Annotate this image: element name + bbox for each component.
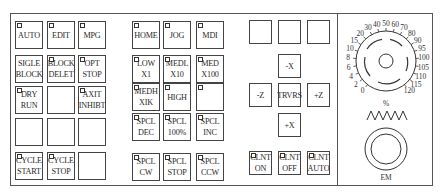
indicator-led-icon bbox=[49, 23, 54, 28]
dial-scale-label: 2 bbox=[354, 80, 358, 89]
key-label: EDIT bbox=[52, 30, 70, 41]
blank-9-button[interactable] bbox=[307, 20, 330, 44]
dial-scale-label: 100 bbox=[418, 53, 430, 62]
axis-inhibit-button[interactable]: AXITINHIBT bbox=[78, 86, 106, 114]
key-label: SPCL bbox=[201, 116, 220, 127]
key-label: DRY bbox=[21, 89, 37, 100]
key-label: +X bbox=[284, 120, 294, 131]
feed-override-dial[interactable]: 0246810152030405060708090951001051101151… bbox=[338, 13, 434, 186]
emergency-stop-button[interactable] bbox=[365, 128, 407, 170]
indicator-led-icon bbox=[251, 153, 256, 158]
spindle-ccw-button[interactable]: SPCLCCW bbox=[196, 153, 224, 181]
cycle-stop-button[interactable]: CYCLESTOP bbox=[47, 152, 75, 180]
medl-x10-button[interactable]: MEDLX10 bbox=[163, 55, 191, 83]
key-label: 100% bbox=[168, 127, 186, 138]
indicator-led-icon bbox=[134, 155, 139, 160]
indicator-led-icon bbox=[198, 85, 203, 90]
indicator-led-icon bbox=[165, 57, 170, 62]
key-label: CW bbox=[140, 167, 153, 178]
zigzag-resistor-icon bbox=[367, 111, 407, 120]
key-label: ON bbox=[255, 163, 266, 174]
dial-scale-label: 4 bbox=[349, 72, 353, 81]
dial-scale-label: 30 bbox=[364, 23, 372, 32]
key-label: INHIBT bbox=[79, 100, 106, 111]
dial-scale-label: 40 bbox=[373, 20, 381, 29]
medh-x1k-button[interactable]: MEDHXIK bbox=[132, 83, 160, 111]
indicator-led-icon bbox=[198, 23, 203, 28]
jog-plus-z-button[interactable]: +Z bbox=[307, 83, 330, 107]
jog-minus-z-button[interactable]: -Z bbox=[249, 83, 272, 107]
mpg-button[interactable]: MPG bbox=[78, 21, 106, 49]
coolant-auto-button[interactable]: CLNTAUTO bbox=[307, 151, 330, 175]
key-label: -Z bbox=[257, 90, 264, 101]
key-label: HIGH bbox=[167, 92, 187, 103]
key-label: SIGLE bbox=[18, 58, 40, 69]
block-delete-button[interactable]: BLOCKDELET bbox=[47, 55, 75, 83]
jog-minus-x-button[interactable]: -X bbox=[278, 54, 301, 78]
key-label: RUN bbox=[21, 100, 38, 111]
key-label: X100 bbox=[201, 69, 218, 80]
dial-unit: % bbox=[383, 99, 389, 108]
key-label: AUTO bbox=[18, 30, 40, 41]
indicator-led-icon bbox=[80, 23, 85, 28]
auto-button[interactable]: AUTO bbox=[15, 21, 43, 49]
indicator-led-icon bbox=[17, 154, 22, 159]
low-x1-button[interactable]: LOWX1 bbox=[132, 55, 160, 83]
key-label: CCW bbox=[201, 167, 219, 178]
indicator-led-icon bbox=[165, 155, 170, 160]
blank-7-button[interactable] bbox=[249, 20, 272, 44]
edit-button[interactable]: EDIT bbox=[47, 21, 75, 49]
key-label: LOW bbox=[137, 58, 155, 69]
spindle-stop-button[interactable]: SPCLSTOP bbox=[163, 153, 191, 181]
indicator-led-icon bbox=[165, 85, 170, 90]
coolant-off-button[interactable]: CLNTOFF bbox=[278, 151, 301, 175]
jog-plus-x-button[interactable]: +X bbox=[278, 113, 301, 137]
key-label: STOP bbox=[82, 69, 101, 80]
key-label: TRVRS bbox=[277, 90, 302, 101]
spindle-100-button[interactable]: SPCL100% bbox=[163, 113, 191, 141]
dry-run-button[interactable]: DRYRUN bbox=[15, 86, 43, 114]
blank-4-button[interactable] bbox=[78, 118, 106, 146]
indicator-led-icon bbox=[17, 23, 22, 28]
single-block-button[interactable]: SIGLEBLOCK bbox=[15, 55, 43, 83]
key-label: XIK bbox=[139, 97, 153, 108]
dial-scale-label: 60 bbox=[392, 20, 400, 29]
coolant-on-button[interactable]: CLNTON bbox=[249, 151, 272, 175]
key-label: DEC bbox=[138, 127, 154, 138]
mdi-button[interactable]: MDI bbox=[196, 21, 224, 49]
key-label: HOME bbox=[134, 30, 157, 41]
blank-5-button[interactable] bbox=[78, 152, 106, 180]
key-label: SPCL bbox=[137, 156, 156, 167]
high-button[interactable]: HIGH bbox=[163, 83, 191, 111]
cycle-start-button[interactable]: CYCLESTART bbox=[15, 152, 43, 180]
jog-button[interactable]: JOG bbox=[163, 21, 191, 49]
dial-scale-label: 6 bbox=[347, 63, 351, 72]
dial-knob-icon bbox=[379, 54, 393, 68]
blank-1-button[interactable] bbox=[47, 86, 75, 114]
indicator-led-icon bbox=[80, 57, 85, 62]
opt-stop-button[interactable]: OPTSTOP bbox=[78, 55, 106, 83]
med-x100-button[interactable]: MEDX100 bbox=[196, 55, 224, 83]
blank-8-button[interactable] bbox=[278, 20, 301, 44]
spindle-inc-button[interactable]: SPCLINC bbox=[196, 113, 224, 141]
blank-3-button[interactable] bbox=[47, 118, 75, 146]
key-label: STOP bbox=[51, 166, 70, 177]
indicator-led-icon bbox=[134, 85, 139, 90]
spindle-dec-button[interactable]: SPCLDEC bbox=[132, 113, 160, 141]
key-label: MDI bbox=[202, 30, 217, 41]
key-label: SPCL bbox=[201, 156, 220, 167]
home-button[interactable]: HOME bbox=[132, 21, 160, 49]
spindle-cw-button[interactable]: SPCLCW bbox=[132, 153, 160, 181]
dial-scale-label: 120 bbox=[404, 86, 416, 95]
emergency-stop-label: EM bbox=[380, 173, 392, 182]
indicator-led-icon bbox=[165, 23, 170, 28]
blank-2-button[interactable] bbox=[15, 118, 43, 146]
blank-6-button[interactable] bbox=[196, 83, 224, 111]
dial-scale-label: 95 bbox=[418, 44, 426, 53]
rapid-traverse-button[interactable]: TRVRS bbox=[278, 83, 301, 107]
indicator-led-icon bbox=[198, 115, 203, 120]
key-label: OPT bbox=[85, 58, 100, 69]
dial-scale-label: 8 bbox=[346, 53, 350, 62]
key-label: +Z bbox=[314, 90, 323, 101]
key-label: DELET bbox=[49, 69, 74, 80]
